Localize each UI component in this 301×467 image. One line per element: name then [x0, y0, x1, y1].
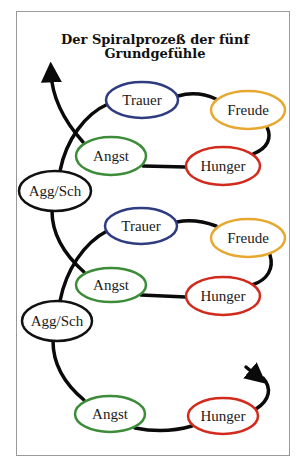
- node-label: Angst: [92, 406, 129, 422]
- node-label: Angst: [93, 148, 130, 164]
- node-label: Trauer: [121, 218, 160, 234]
- node-label: Angst: [93, 277, 130, 293]
- node-aggsch-2: Agg/Sch: [22, 301, 92, 341]
- node-hunger-1: Hunger: [186, 147, 260, 185]
- node-freude-2: Freude: [211, 219, 285, 257]
- edge-aggsch2-angst3: [53, 341, 84, 400]
- node-angst-2: Angst: [76, 268, 146, 302]
- edge-hunger3-curve: [256, 378, 268, 409]
- spiral-diagram: TrauerFreudeAngstHungerAgg/SchTrauerFreu…: [0, 0, 301, 467]
- node-trauer-1: Trauer: [106, 82, 178, 118]
- edge-angst3-hunger3: [135, 426, 192, 430]
- edge-aggsch1-angst2: [52, 211, 84, 272]
- edge-freude1-hunger1: [253, 127, 269, 154]
- edge-hunger2-angst2: [141, 295, 186, 297]
- node-label: Hunger: [201, 288, 246, 304]
- node-label: Agg/Sch: [31, 313, 84, 329]
- node-label: Hunger: [201, 408, 246, 424]
- node-angst-1: Angst: [76, 137, 146, 175]
- edge-trauer2-freude2: [177, 221, 216, 226]
- node-hunger-2: Hunger: [186, 277, 260, 315]
- nodes: TrauerFreudeAngstHungerAgg/SchTrauerFreu…: [19, 82, 285, 434]
- node-trauer-2: Trauer: [105, 208, 177, 244]
- node-label: Trauer: [122, 92, 161, 108]
- node-angst-3: Angst: [75, 396, 145, 432]
- bottom-entry-arrow: [246, 367, 258, 377]
- node-aggsch-1: Agg/Sch: [19, 171, 91, 211]
- node-label: Freude: [227, 102, 269, 118]
- node-label: Hunger: [201, 158, 246, 174]
- node-hunger-3: Hunger: [188, 398, 258, 434]
- node-label: Agg/Sch: [29, 183, 82, 199]
- edge-freude2-hunger2: [252, 255, 271, 285]
- edge-trauer1-freude1: [178, 94, 216, 99]
- node-freude-1: Freude: [211, 91, 285, 129]
- node-label: Freude: [227, 230, 269, 246]
- edge-hunger1-angst1: [143, 166, 186, 167]
